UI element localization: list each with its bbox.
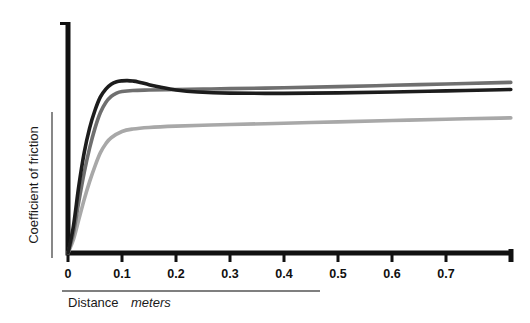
x-axis-tick-label: 0.4 bbox=[275, 267, 292, 281]
x-axis-tick-label: 0.3 bbox=[221, 267, 238, 281]
x-axis-tick-label: 0.2 bbox=[167, 267, 184, 281]
x-axis-tick-label: 0.1 bbox=[113, 267, 130, 281]
x-axis-tick-label: 0.7 bbox=[437, 267, 454, 281]
friction-vs-distance-chart: Coefficient of friction 00.10.20.30.40.5… bbox=[0, 0, 530, 323]
chart-figure: Coefficient of friction 00.10.20.30.40.5… bbox=[0, 0, 530, 323]
curve-medium-gray bbox=[68, 82, 511, 253]
x-axis-tick-label: 0.5 bbox=[329, 267, 346, 281]
axis-spines bbox=[68, 22, 512, 253]
curve-light-gray bbox=[68, 118, 511, 253]
plot-axes bbox=[60, 22, 512, 262]
curve-dark bbox=[68, 81, 511, 253]
x-axis-unit: meters bbox=[131, 295, 171, 310]
x-axis-tick-label: 0 bbox=[65, 267, 72, 281]
x-axis-tick-label: 0.6 bbox=[383, 267, 400, 281]
data-curves bbox=[68, 81, 511, 253]
y-axis-title: Coefficient of friction bbox=[26, 126, 41, 244]
x-axis-tick-labels: 00.10.20.30.40.50.60.7 bbox=[65, 267, 455, 281]
x-axis-title: Distance bbox=[68, 295, 119, 310]
